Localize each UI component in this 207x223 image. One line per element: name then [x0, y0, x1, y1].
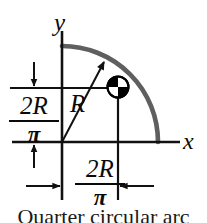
vertical-distance-denominator: π — [8, 123, 60, 147]
radius-label: R — [70, 91, 85, 116]
centroid-marker — [108, 77, 129, 98]
quarter-circular-arc-figure: y x R 2R π 2R π Quarter circular arc — [0, 0, 207, 223]
figure-caption: Quarter circular arc — [0, 205, 207, 223]
vertical-distance-numerator: 2R — [8, 93, 60, 119]
y-axis-label: y — [54, 10, 65, 35]
horizontal-distance-numerator: 2R — [74, 156, 126, 182]
vertical-centroid-distance-label: 2R π — [8, 93, 60, 147]
x-axis-label: x — [183, 129, 194, 153]
horizontal-centroid-distance-label: 2R π — [74, 156, 126, 210]
